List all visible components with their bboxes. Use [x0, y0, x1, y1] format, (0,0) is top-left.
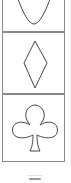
diamond-icon [3, 33, 65, 95]
shape-option-parabola[interactable] [2, 0, 65, 32]
resize-handle[interactable] [29, 178, 41, 180]
shape-option-diamond[interactable] [2, 32, 65, 94]
club-icon [3, 95, 65, 163]
shape-palette [2, 0, 64, 162]
shape-option-club[interactable] [2, 94, 65, 162]
resize-handle-shadow [27, 175, 43, 176]
parabola-icon [3, 0, 65, 32]
